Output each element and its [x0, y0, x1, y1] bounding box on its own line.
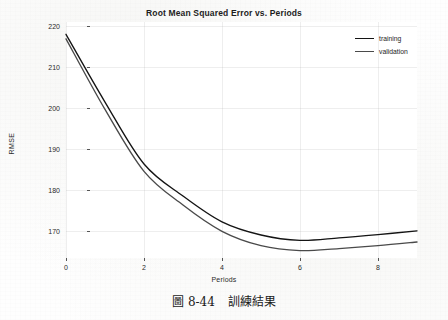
y-tick-label: 170: [48, 228, 60, 235]
legend-swatch-validation: [355, 51, 374, 52]
x-tick-mark: [222, 258, 223, 261]
series-line-validation: [66, 39, 417, 251]
scanned-page: Root Mean Squared Error vs. Periods 1701…: [0, 0, 448, 320]
y-tick-label: 200: [48, 105, 60, 112]
legend-label: training: [379, 35, 401, 42]
x-tick-label: 6: [298, 264, 302, 271]
legend-item-training: training: [355, 33, 441, 44]
x-tick-label: 0: [64, 264, 68, 271]
x-tick-label: 2: [142, 264, 146, 271]
figure-caption-text: 訓練結果: [228, 295, 276, 309]
y-tick-label: 220: [48, 23, 60, 30]
legend-label: validation: [379, 48, 408, 55]
x-tick-mark: [66, 258, 67, 261]
legend-item-validation: validation: [355, 46, 441, 57]
y-tick-mark: [87, 67, 90, 68]
y-tick-mark: [87, 231, 90, 232]
chart-legend: trainingvalidation: [355, 33, 441, 59]
y-tick-mark: [87, 26, 90, 27]
y-tick-mark: [87, 149, 90, 150]
x-tick-mark: [144, 258, 145, 261]
x-tick-mark: [300, 258, 301, 261]
series-line-training: [66, 34, 417, 240]
figure-number: 圖 8-44: [172, 295, 215, 309]
y-tick-label: 180: [48, 187, 60, 194]
figure-caption: 圖 8-44訓練結果: [0, 292, 448, 309]
y-tick-mark: [87, 190, 90, 191]
chart-title: Root Mean Squared Error vs. Periods: [0, 8, 448, 18]
x-axis-label: Periods: [0, 276, 448, 283]
x-axis-ticks: 02468: [0, 264, 448, 276]
y-axis-ticks: 170180190200210220: [24, 22, 60, 258]
y-tick-label: 190: [48, 146, 60, 153]
x-tick-label: 4: [220, 264, 224, 271]
legend-swatch-training: [355, 38, 374, 39]
x-tick-mark: [378, 258, 379, 261]
y-tick-mark: [87, 108, 90, 109]
y-tick-label: 210: [48, 64, 60, 71]
y-axis-label: RMSE: [8, 133, 15, 155]
figure-rmse-vs-periods: Root Mean Squared Error vs. Periods 1701…: [0, 0, 448, 288]
x-tick-label: 8: [376, 264, 380, 271]
